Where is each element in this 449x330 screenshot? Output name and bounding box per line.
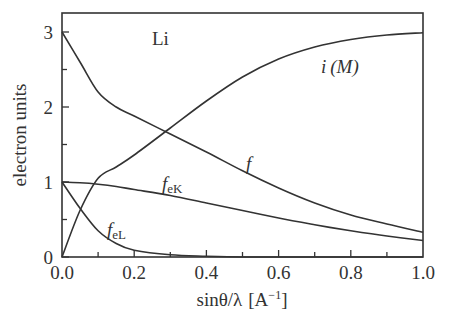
- x-tick-label: 1.0: [411, 262, 435, 283]
- y-axis-label: electron units: [9, 84, 30, 187]
- y-tick-label: 2: [44, 97, 54, 118]
- series-line-im: [62, 33, 423, 257]
- series-line-f: [62, 32, 423, 232]
- y-tick-label: 1: [44, 172, 54, 193]
- annotation-li: Li: [152, 28, 169, 49]
- label-f-el: feL: [107, 219, 126, 242]
- x-axis-label: sinθ/λ[A−1]: [197, 288, 288, 310]
- y-axis: 0123: [44, 22, 70, 268]
- x-axis: 0.00.20.40.60.81.0: [50, 250, 435, 283]
- series-lines: [62, 32, 423, 257]
- x-tick-label: 0.4: [195, 262, 219, 283]
- x-tick-label: 0.2: [122, 262, 146, 283]
- label-f-ek: feK: [162, 173, 183, 196]
- x-tick-label: 0.0: [50, 262, 74, 283]
- label-i-m: i(M): [321, 56, 359, 78]
- label-f: f: [246, 153, 254, 174]
- x-tick-label: 0.6: [267, 262, 291, 283]
- x-tick-label: 0.8: [339, 262, 363, 283]
- chart: 0123 0.00.20.40.60.81.0 Li electron unit…: [0, 0, 449, 330]
- y-tick-label: 3: [44, 22, 54, 43]
